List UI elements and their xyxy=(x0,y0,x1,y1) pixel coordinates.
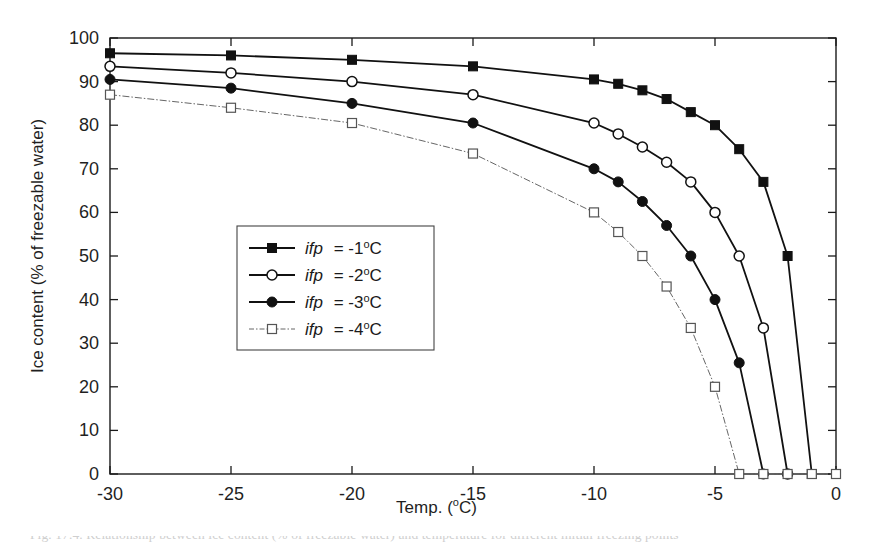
figure-panel: -30-25-20-15-10-500102030405060708090100… xyxy=(0,0,873,557)
legend-value-0: = -1 xyxy=(329,239,364,258)
marker-filled-circle xyxy=(734,358,744,368)
marker-filled-square xyxy=(638,86,647,95)
marker-open-circle xyxy=(613,129,623,139)
marker-filled-square xyxy=(759,177,768,186)
marker-filled-square xyxy=(711,121,720,130)
y-tick-label: 90 xyxy=(79,72,99,92)
marker-open-square xyxy=(106,90,115,99)
y-axis-title: Ice content (% of freezable water) xyxy=(28,36,48,456)
marker-filled-circle xyxy=(686,251,696,261)
legend-value-2: = -3 xyxy=(329,293,364,312)
marker-open-circle xyxy=(637,142,647,152)
marker-open-square xyxy=(469,149,478,158)
marker-open-square xyxy=(268,325,277,334)
marker-open-square xyxy=(807,470,816,479)
x-axis-title: Temp. (oC) xyxy=(0,496,873,518)
marker-filled-square xyxy=(348,55,357,64)
marker-open-circle xyxy=(226,68,236,78)
marker-filled-square xyxy=(227,51,236,60)
marker-filled-circle xyxy=(105,74,115,84)
marker-open-square xyxy=(227,103,236,112)
legend-label-0: ifp = -1oC xyxy=(305,238,382,258)
marker-open-square xyxy=(759,470,768,479)
marker-open-square xyxy=(348,119,357,128)
marker-filled-square xyxy=(735,145,744,154)
y-tick-label: 70 xyxy=(79,159,99,179)
marker-filled-circle xyxy=(589,164,599,174)
marker-filled-circle xyxy=(613,177,623,187)
marker-open-square xyxy=(832,470,841,479)
legend-symbol-0: ifp xyxy=(305,239,323,258)
y-tick-label: 20 xyxy=(79,377,99,397)
legend-label-1: ifp = -2oC xyxy=(305,265,382,285)
marker-filled-circle xyxy=(710,295,720,305)
legend-value-1: = -2 xyxy=(329,266,364,285)
marker-open-circle xyxy=(267,270,277,280)
y-tick-label: 40 xyxy=(79,290,99,310)
y-tick-label: 0 xyxy=(89,464,99,484)
chart-canvas: -30-25-20-15-10-500102030405060708090100… xyxy=(0,0,873,557)
y-tick-label: 50 xyxy=(79,246,99,266)
legend: ifp = -1oCifp = -2oCifp = -3oCifp = -4oC xyxy=(237,226,434,350)
plot-frame xyxy=(110,38,836,474)
legend-label-3: ifp = -4oC xyxy=(305,319,382,339)
marker-filled-circle xyxy=(662,220,672,230)
legend-value-3: = -4 xyxy=(329,320,364,339)
y-tick-label: 100 xyxy=(69,28,99,48)
figure-caption: Fig. 17.4. Relationship between ice cont… xyxy=(30,536,850,556)
legend-unit-1: C xyxy=(370,266,382,285)
y-tick-label: 30 xyxy=(79,333,99,353)
marker-open-circle xyxy=(686,177,696,187)
series-0 xyxy=(106,49,817,479)
legend-label-2: ifp = -3oC xyxy=(305,292,382,312)
marker-open-circle xyxy=(105,61,115,71)
marker-open-circle xyxy=(758,323,768,333)
legend-symbol-3: ifp xyxy=(305,320,323,339)
y-tick-label: 60 xyxy=(79,202,99,222)
marker-open-square xyxy=(735,470,744,479)
marker-filled-circle xyxy=(468,118,478,128)
series-line xyxy=(110,66,788,474)
marker-open-circle xyxy=(589,118,599,128)
marker-open-circle xyxy=(710,207,720,217)
marker-open-square xyxy=(686,323,695,332)
legend-symbol-2: ifp xyxy=(305,293,323,312)
y-tick-label: 80 xyxy=(79,115,99,135)
series-line xyxy=(110,79,763,474)
marker-filled-circle xyxy=(267,297,277,307)
marker-filled-circle xyxy=(347,98,357,108)
marker-filled-square xyxy=(268,244,277,253)
x-axis-title-tail: C) xyxy=(459,498,477,517)
marker-open-square xyxy=(711,382,720,391)
legend-symbol-1: ifp xyxy=(305,266,323,285)
marker-filled-square xyxy=(686,108,695,117)
marker-open-square xyxy=(614,228,623,237)
marker-filled-circle xyxy=(637,197,647,207)
legend-unit-2: C xyxy=(370,293,382,312)
series-2 xyxy=(105,74,768,479)
marker-filled-circle xyxy=(226,83,236,93)
marker-open-circle xyxy=(347,77,357,87)
marker-filled-square xyxy=(106,49,115,58)
marker-filled-square xyxy=(614,79,623,88)
legend-unit-0: C xyxy=(370,239,382,258)
y-axis-title-text: Ice content (% of freezable water) xyxy=(28,119,47,373)
y-tick-label: 10 xyxy=(79,420,99,440)
marker-open-circle xyxy=(468,90,478,100)
marker-open-square xyxy=(638,252,647,261)
legend-unit-3: C xyxy=(370,320,382,339)
marker-filled-square xyxy=(783,252,792,261)
marker-open-square xyxy=(662,282,671,291)
series-3 xyxy=(106,90,841,478)
marker-filled-square xyxy=(662,95,671,104)
marker-open-square xyxy=(590,208,599,217)
x-axis-title-main: Temp. ( xyxy=(396,498,453,517)
marker-open-square xyxy=(783,470,792,479)
marker-filled-square xyxy=(469,62,478,71)
series-1 xyxy=(105,61,793,479)
marker-open-circle xyxy=(662,157,672,167)
marker-filled-square xyxy=(590,75,599,84)
marker-open-circle xyxy=(734,251,744,261)
figure-caption-text: Fig. 17.4. Relationship between ice cont… xyxy=(30,536,679,542)
series-line xyxy=(110,53,812,474)
